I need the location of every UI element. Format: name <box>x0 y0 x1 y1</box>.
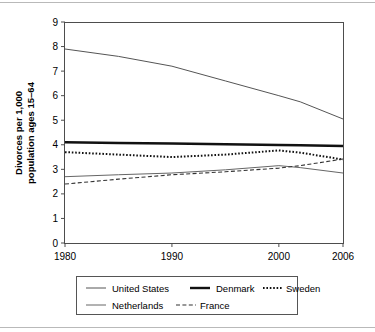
legend-label: France <box>200 300 230 311</box>
x-axis-ticks: 1980199020002006 <box>54 243 355 262</box>
y-axis-title-line1: Divorces per 1,000 <box>13 91 24 175</box>
divorce-rate-line-chart: 0123456789 1980199020002006 Divorces per… <box>0 0 375 332</box>
figure-container: 0123456789 1980199020002006 Divorces per… <box>0 0 375 332</box>
y-tick-label: 9 <box>52 17 58 28</box>
y-tick-label: 8 <box>52 41 58 52</box>
y-tick-label: 0 <box>52 238 58 249</box>
y-axis-title-line2: population ages 15–64 <box>25 81 36 184</box>
legend-label: Sweden <box>286 283 320 294</box>
y-axis-title: Divorces per 1,000 population ages 15–64 <box>13 81 36 184</box>
plot-frame <box>65 23 344 244</box>
legend: United StatesDenmarkSwedenNetherlandsFra… <box>77 277 321 315</box>
legend-box <box>77 277 298 315</box>
x-tick-label: 2006 <box>332 251 355 262</box>
legend-label: Netherlands <box>112 300 163 311</box>
x-tick-label: 1980 <box>54 251 77 262</box>
y-tick-label: 1 <box>52 213 58 224</box>
x-tick-label: 2000 <box>268 251 291 262</box>
y-tick-label: 7 <box>52 66 58 77</box>
legend-label: Denmark <box>216 283 255 294</box>
x-tick-label: 1990 <box>161 251 184 262</box>
y-tick-label: 5 <box>52 115 58 126</box>
legend-label: United States <box>112 283 169 294</box>
y-axis-ticks: 0123456789 <box>52 17 65 249</box>
y-tick-label: 4 <box>52 139 58 150</box>
y-tick-label: 3 <box>52 164 58 175</box>
y-tick-label: 6 <box>52 90 58 101</box>
y-tick-label: 2 <box>52 188 58 199</box>
